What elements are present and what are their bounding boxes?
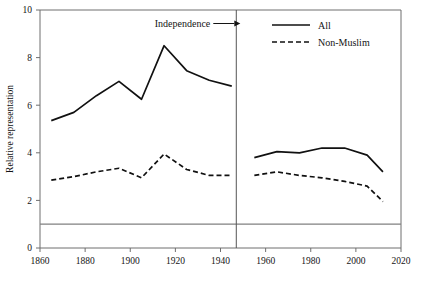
series-line-non-muslim-post-independence [254, 172, 383, 202]
legend-label-non-muslim: Non-Muslim [318, 37, 370, 48]
x-tick-label: 1900 [121, 256, 140, 266]
y-tick-label: 2 [27, 196, 32, 206]
x-axis-ticks [40, 248, 401, 252]
y-tick-label: 4 [27, 148, 32, 158]
x-tick-label: 2020 [392, 256, 411, 266]
x-axis-tick-labels: 186018801900192019401960198020002020 [31, 256, 411, 266]
y-axis-tick-labels: 0246810 [23, 5, 33, 253]
independence-annotation: Independence [155, 18, 241, 29]
series-line-all-pre-independence [51, 46, 232, 121]
data-series-group [51, 46, 383, 202]
legend-label-all: All [318, 20, 331, 31]
y-tick-label: 0 [27, 243, 32, 253]
x-tick-label: 1980 [301, 256, 320, 266]
x-tick-label: 1880 [76, 256, 95, 266]
chart-figure: 186018801900192019401960198020002020 024… [0, 0, 422, 282]
y-tick-label: 10 [23, 5, 33, 15]
independence-annotation-label: Independence [155, 18, 211, 29]
x-tick-label: 1960 [256, 256, 275, 266]
series-line-all-post-independence [254, 148, 383, 172]
chart-legend: All Non-Muslim [272, 20, 370, 48]
x-tick-label: 1860 [31, 256, 50, 266]
y-axis-ticks [36, 10, 40, 248]
independence-arrow-head-icon [234, 21, 240, 27]
y-tick-label: 6 [27, 101, 32, 111]
x-tick-label: 1920 [166, 256, 185, 266]
relative-representation-line-chart: 186018801900192019401960198020002020 024… [0, 0, 422, 282]
x-tick-label: 2000 [346, 256, 365, 266]
x-tick-label: 1940 [211, 256, 230, 266]
y-axis-title: Relative representation [5, 85, 15, 173]
series-line-non-muslim-pre-independence [51, 154, 232, 180]
y-tick-label: 8 [27, 53, 32, 63]
